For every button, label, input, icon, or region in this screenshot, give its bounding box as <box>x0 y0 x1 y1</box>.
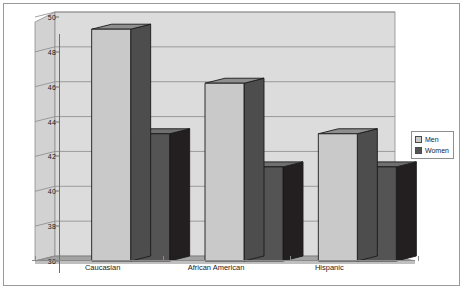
x-tick-mark <box>290 256 291 261</box>
bar-face <box>283 162 303 261</box>
bar-face <box>244 78 264 261</box>
legend-item[interactable]: Women <box>415 146 449 155</box>
legend-label: Men <box>425 136 439 144</box>
x-tick-label: Hispanic <box>315 263 344 272</box>
bar-face <box>92 29 131 261</box>
bar-face <box>205 83 244 261</box>
bar-chart: 3638404244464850 CaucasianAfrican Americ… <box>0 0 466 290</box>
chart-legend[interactable]: MenWomen <box>411 131 454 159</box>
legend-item[interactable]: Men <box>415 135 449 144</box>
bar-face <box>318 134 357 261</box>
bars-layer <box>0 0 466 290</box>
x-axis-labels: CaucasianAfrican AmericanHispanic <box>0 263 466 277</box>
x-tick-mark <box>35 256 36 261</box>
x-tick-mark <box>163 256 164 261</box>
bar-face <box>396 162 416 261</box>
bar-men-0 <box>92 24 151 261</box>
x-tick-label: Caucasian <box>85 263 120 272</box>
x-tick-label: African American <box>188 263 245 272</box>
legend-swatch-icon <box>415 136 422 143</box>
legend-label: Women <box>425 147 449 155</box>
bar-men-2 <box>318 129 377 261</box>
x-tick-mark <box>418 256 419 261</box>
bar-face <box>170 129 190 261</box>
bar-face <box>357 129 377 261</box>
bar-men-1 <box>205 78 264 261</box>
bar-face <box>131 24 151 261</box>
x-axis-line <box>32 260 415 261</box>
legend-swatch-icon <box>415 147 422 154</box>
